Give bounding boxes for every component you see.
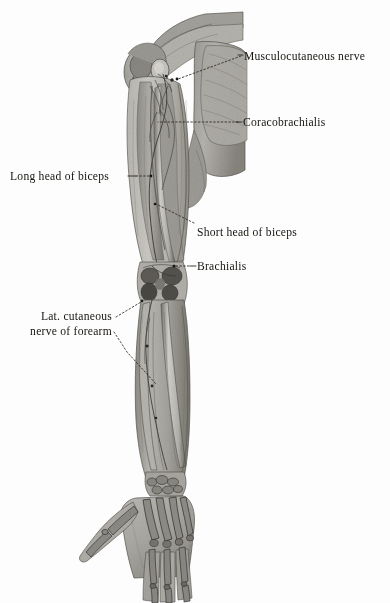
forearm [135,300,190,478]
label-lat-cutaneous-nerve-of-forearm: Lat. cutaneous nerve of forearm [14,309,112,339]
label-brachialis: Brachialis [197,259,247,274]
elbow-region [137,262,187,304]
label-line-1: Lat. cutaneous [14,309,112,324]
anatomy-figure-page: Musculocutaneous nerve Coracobrachialis … [0,0,390,603]
label-line-2: nerve of forearm [14,324,112,339]
label-coracobrachialis: Coracobrachialis [243,115,326,130]
anatomical-illustration [0,0,390,603]
wrist [145,472,186,496]
label-long-head-of-biceps: Long head of biceps [10,169,109,184]
label-musculocutaneous-nerve: Musculocutaneous nerve [244,49,365,64]
label-short-head-of-biceps: Short head of biceps [197,225,297,240]
